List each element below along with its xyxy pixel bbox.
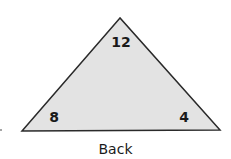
triangle-card: 12 8 4 — [0, 0, 231, 159]
stray-mark — [0, 129, 2, 131]
bottom-left-number: 8 — [49, 109, 59, 125]
side-label: Back — [0, 141, 231, 157]
bottom-right-number: 4 — [179, 109, 189, 125]
top-number: 12 — [111, 34, 130, 50]
